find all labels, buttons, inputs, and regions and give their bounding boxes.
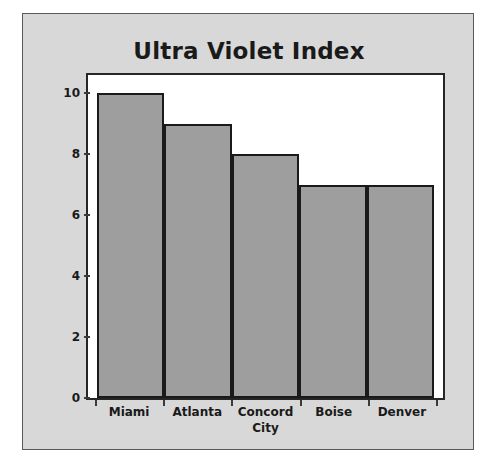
x-tick-label: Atlanta	[163, 406, 231, 420]
bar-concord	[232, 154, 299, 398]
bar-atlanta	[164, 124, 231, 398]
bar-denver	[367, 185, 434, 398]
x-axis-tick-labels: MiamiAtlantaConcordBoiseDenver	[86, 406, 445, 420]
y-tick-label: 10	[63, 87, 80, 99]
chart-figure: Ultra Violet Index Index 0246810 MiamiAt…	[22, 13, 474, 450]
bar-cell	[97, 75, 164, 398]
y-tick-label: 2	[72, 331, 80, 343]
bar-series	[97, 75, 434, 398]
y-tick-label: 0	[72, 392, 80, 404]
bar-boise	[299, 185, 366, 398]
bar-cell	[232, 75, 299, 398]
bar-cell	[299, 75, 366, 398]
x-tick-label: Miami	[95, 406, 163, 420]
bar-cell	[164, 75, 231, 398]
plot-area: Index 0246810	[86, 73, 445, 400]
bar-miami	[97, 93, 164, 398]
x-tick-label: Concord	[231, 406, 299, 420]
y-tick-label: 6	[72, 209, 80, 221]
chart-title: Ultra Violet Index	[23, 38, 475, 64]
x-tick-label: Denver	[368, 406, 436, 420]
x-tick-label: Boise	[300, 406, 368, 420]
bars-region	[88, 75, 443, 398]
x-axis-label: City	[86, 421, 445, 435]
y-tick-label: 4	[72, 270, 80, 282]
bar-cell	[367, 75, 434, 398]
y-tick-label: 8	[72, 148, 80, 160]
